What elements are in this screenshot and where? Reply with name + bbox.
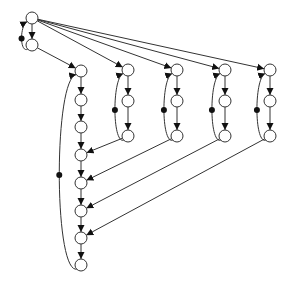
edge-dot-marker xyxy=(19,35,25,41)
edges-layer xyxy=(19,19,270,269)
edge-dot-marker xyxy=(112,107,118,113)
nodes-layer xyxy=(26,12,276,271)
graph-node-d2 xyxy=(264,95,276,107)
edge-b3-b1 xyxy=(164,74,173,141)
edge-a3-m4 xyxy=(87,138,123,153)
graph-node-root xyxy=(26,12,38,24)
graph-node-c1 xyxy=(219,64,231,76)
graph-node-a1 xyxy=(122,64,134,76)
graph-node-c3 xyxy=(219,130,231,142)
graph-node-m1 xyxy=(75,65,87,77)
graph-node-m4 xyxy=(75,149,87,161)
edge-m8-m1 xyxy=(59,75,77,270)
graph-node-b1 xyxy=(171,64,183,76)
edge-root-d1 xyxy=(38,19,264,68)
graph-node-b2 xyxy=(171,95,183,107)
graph-node-d3 xyxy=(264,130,276,142)
graph-node-b3 xyxy=(171,130,183,142)
edge-d3-m7 xyxy=(86,139,264,235)
edge-dot-marker xyxy=(56,172,62,178)
edge-b3-m5 xyxy=(86,139,171,181)
graph-node-a3 xyxy=(122,130,134,142)
edge-root-c1 xyxy=(38,20,219,69)
directed-graph-diagram xyxy=(0,0,291,294)
edge-dot-marker xyxy=(209,107,215,113)
edge-root2-m1 xyxy=(37,48,75,68)
edge-dot-marker xyxy=(254,107,260,113)
graph-node-m5 xyxy=(75,177,87,189)
graph-node-c2 xyxy=(219,95,231,107)
edge-root-a1 xyxy=(37,21,122,67)
graph-node-a2 xyxy=(122,95,134,107)
edge-d3-d1 xyxy=(257,74,266,141)
graph-node-m2 xyxy=(75,94,87,106)
graph-node-d1 xyxy=(264,64,276,76)
edge-c3-c1 xyxy=(212,74,221,141)
edge-dot-marker xyxy=(161,107,167,113)
edge-a3-a1 xyxy=(115,74,124,141)
graph-node-m8 xyxy=(75,259,87,271)
graph-node-m7 xyxy=(75,232,87,244)
graph-node-m3 xyxy=(75,121,87,133)
graph-node-m6 xyxy=(75,205,87,217)
graph-node-root2 xyxy=(26,39,38,51)
